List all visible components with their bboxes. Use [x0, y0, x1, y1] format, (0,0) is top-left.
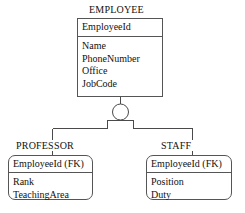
subtype-title-professor: PROFESSOR — [14, 140, 76, 151]
employee-attribute-list: Name PhoneNumber Office JobCode — [78, 37, 162, 93]
employee-primary-key: EmployeeId — [78, 19, 162, 37]
employee-attribute: JobCode — [82, 78, 158, 91]
professor-attribute-list: Rank TeachingArea — [9, 173, 92, 204]
staff-primary-key: EmployeeId (FK) — [147, 156, 231, 173]
professor-attribute: Rank — [13, 176, 88, 189]
staff-attribute-list: Position Duty — [147, 173, 231, 204]
employee-attribute: Name — [82, 40, 158, 53]
subtype-circle-icon — [113, 104, 129, 120]
supertype-title: EMPLOYEE — [87, 4, 146, 15]
entity-professor[interactable]: EmployeeId (FK) Rank TeachingArea — [8, 155, 93, 200]
entity-staff[interactable]: EmployeeId (FK) Position Duty — [146, 155, 232, 200]
employee-attribute: PhoneNumber — [82, 53, 158, 66]
entity-employee[interactable]: EmployeeId Name PhoneNumber Office JobCo… — [77, 18, 163, 97]
subtype-title-staff: STAFF — [159, 140, 193, 151]
professor-primary-key: EmployeeId (FK) — [9, 156, 92, 173]
er-diagram-canvas: EMPLOYEE EmployeeId Name PhoneNumber Off… — [0, 0, 245, 213]
professor-attribute: TeachingArea — [13, 189, 88, 202]
staff-attribute: Duty — [151, 189, 227, 202]
employee-attribute: Office — [82, 65, 158, 78]
staff-attribute: Position — [151, 176, 227, 189]
